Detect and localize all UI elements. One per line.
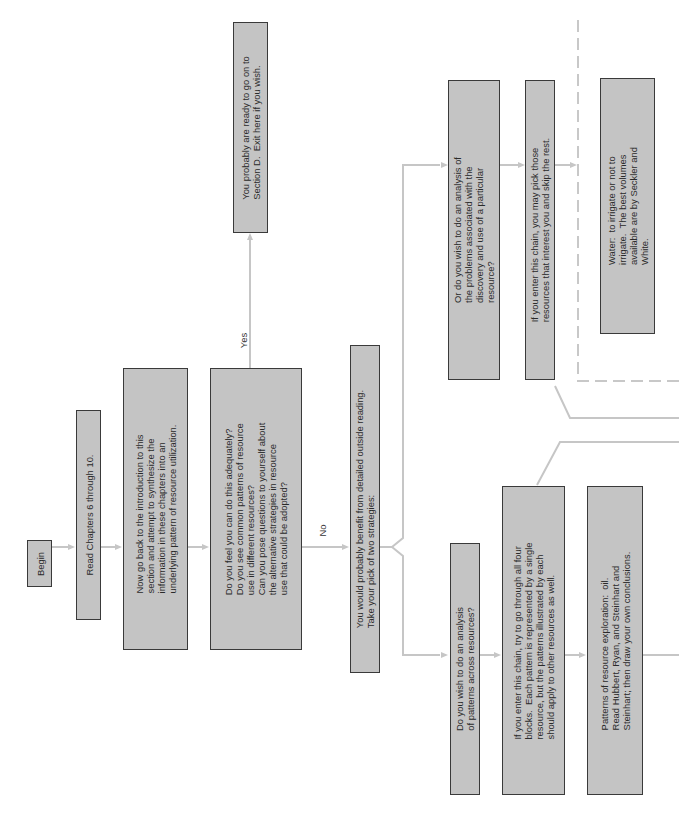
problems-instruction-text: If you enter this chain, you may pick th… xyxy=(529,138,551,322)
arrow-right-icon xyxy=(518,162,525,168)
arrow-right-icon xyxy=(202,544,209,550)
problems-question-text: Or do you wish to do an analysis of the … xyxy=(452,157,496,303)
arrow-right-icon xyxy=(68,544,75,550)
begin-text: Begin xyxy=(34,552,45,576)
no-label: No xyxy=(317,524,328,536)
dashed-group-border xyxy=(577,380,679,382)
self-check-question-box: Do you feel you can do this adequately? … xyxy=(210,368,302,650)
arrow-right-icon xyxy=(441,162,448,168)
arrow-right-icon xyxy=(342,544,349,550)
water-block-box: Water: to irrigate or not to irrigate. T… xyxy=(600,78,655,334)
connector xyxy=(565,654,579,656)
no-connector xyxy=(302,546,343,548)
connector xyxy=(188,546,203,548)
synthesize-text: Now go back to the introduction to this … xyxy=(134,425,178,594)
arrow-right-icon xyxy=(441,652,448,658)
outside-reading-text: You would probably benefit from detailed… xyxy=(354,390,376,628)
problems-instruction-box: If you enter this chain, you may pick th… xyxy=(525,80,555,380)
connector xyxy=(555,164,571,166)
patterns-question-text: Do you wish to do an analysis of pattern… xyxy=(454,607,476,731)
synthesize-box: Now go back to the introduction to this … xyxy=(123,368,188,650)
arrow-right-icon xyxy=(494,652,501,658)
read-chapters-text: Read Chapters 6 through 10. xyxy=(83,455,94,576)
patterns-instruction-box: If you enter this chain, try to go throu… xyxy=(502,486,565,795)
yes-connector xyxy=(249,240,251,368)
arrow-right-icon xyxy=(579,652,586,658)
yes-label: Yes xyxy=(238,333,249,349)
arrow-right-icon xyxy=(115,544,122,550)
connector xyxy=(480,654,494,656)
problems-question-box: Or do you wish to do an analysis of the … xyxy=(448,80,500,380)
dashed-group-border xyxy=(577,20,579,382)
patterns-instruction-text: If you enter this chain, try to go throu… xyxy=(512,542,556,739)
arrow-right-icon xyxy=(570,162,577,168)
connector xyxy=(500,164,518,166)
begin-box: Begin xyxy=(27,540,52,587)
arrow-up-icon xyxy=(247,233,253,240)
connector xyxy=(52,546,69,548)
water-block-text: Water: to irrigate or not to irrigate. T… xyxy=(606,147,650,265)
exit-section-d-text: You probably are ready to go on to Secti… xyxy=(240,56,262,200)
patterns-question-box: Do you wish to do an analysis of pattern… xyxy=(450,543,480,795)
oil-block-text: Patterns of resource exploration: oil. R… xyxy=(599,551,632,730)
exit-section-d-box: You probably are ready to go on to Secti… xyxy=(233,22,268,233)
oil-block-box: Patterns of resource exploration: oil. R… xyxy=(587,486,643,795)
connector xyxy=(101,546,116,548)
self-check-text: Do you feel you can do this adequately? … xyxy=(223,423,289,596)
outside-reading-box: You would probably benefit from detailed… xyxy=(350,345,380,673)
read-chapters-box: Read Chapters 6 through 10. xyxy=(76,410,101,620)
